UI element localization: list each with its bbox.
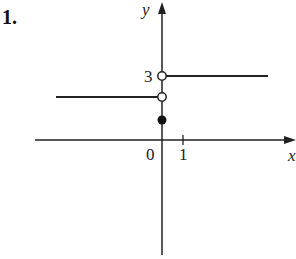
open-circle-at-3 [158,72,166,80]
filled-circle-value [158,116,167,125]
origin-label: 0 [146,145,155,164]
x-axis-arrow-icon [284,136,296,144]
open-circle-left-limit [158,93,166,101]
y-tick-label-3: 3 [144,67,153,86]
function-graph: y 3 0 1 x [0,0,296,259]
x-tick-label-1: 1 [179,145,188,164]
x-axis-label: x [287,146,296,165]
y-axis-arrow-icon [158,2,166,14]
y-axis-label: y [140,0,150,19]
